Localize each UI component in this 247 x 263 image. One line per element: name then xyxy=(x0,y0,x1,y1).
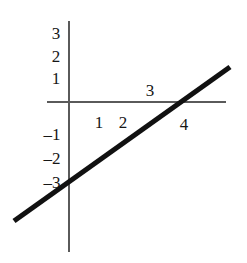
x-tick-label-1: 1 xyxy=(95,114,104,131)
y-tick-label-minus-1: –1 xyxy=(44,126,61,143)
plot-canvas xyxy=(0,0,247,263)
y-tick-label-3: 3 xyxy=(52,25,61,42)
y-tick-label-2: 2 xyxy=(52,48,61,65)
x-tick-label-3: 3 xyxy=(146,82,155,99)
x-tick-label-2: 2 xyxy=(119,114,128,131)
line-graph-figure: 3 2 1 –1 –2 –3 1 2 3 4 xyxy=(0,0,247,263)
data-series-group xyxy=(14,67,230,221)
y-tick-label-minus-3: –3 xyxy=(44,174,61,191)
x-tick-label-4: 4 xyxy=(180,116,189,133)
data-line xyxy=(14,67,230,221)
y-tick-label-minus-2: –2 xyxy=(44,150,61,167)
y-tick-label-1: 1 xyxy=(52,70,61,87)
